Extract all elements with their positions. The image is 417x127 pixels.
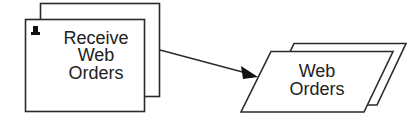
diagram-canvas: Receive Web Orders Web Orders — [0, 0, 417, 127]
connector-arrow[interactable] — [160, 50, 258, 79]
process-label-line-3: Orders — [68, 63, 123, 83]
data-store-node-web-orders[interactable]: Web Orders — [241, 44, 406, 113]
process-label-line-2: Web — [78, 45, 115, 65]
data-store-label-line-1: Web — [299, 61, 336, 81]
arrowhead-icon — [241, 66, 258, 79]
data-store-label-line-2: Orders — [289, 79, 344, 99]
process-node-receive-web-orders[interactable]: Receive Web Orders — [26, 4, 160, 112]
connector-line — [160, 50, 250, 74]
